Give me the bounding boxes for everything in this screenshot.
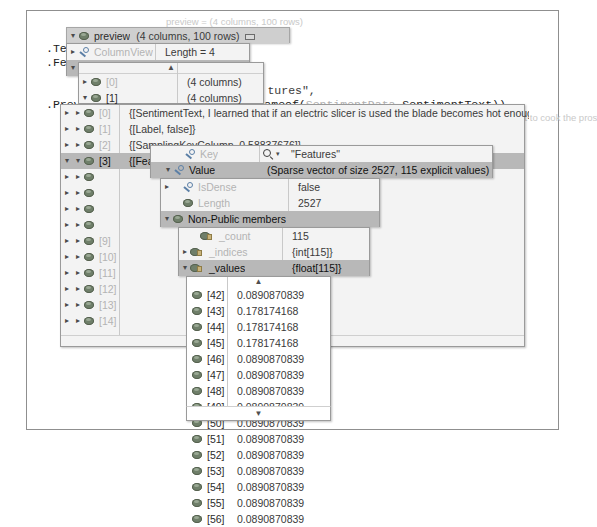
- row-nonpublic-members[interactable]: ▾ Non-Public members: [161, 211, 379, 227]
- values-row-3[interactable]: [45]0.178174168: [187, 335, 330, 351]
- values-row-5[interactable]: [47]0.0890870839: [187, 367, 330, 383]
- row-key[interactable]: ▾ Key ▾ "Features": [151, 146, 492, 162]
- values-row-13-value: 0.0890870839: [231, 495, 304, 511]
- row-value-label: Value: [186, 162, 215, 178]
- field-icon: [83, 154, 96, 168]
- field-icon: [83, 186, 96, 200]
- row-columnview[interactable]: ▸ ColumnView Length = 4: [67, 44, 249, 60]
- expander-value[interactable]: ▾: [162, 162, 173, 178]
- expander-key: ▾: [151, 146, 162, 162]
- property-icon: [78, 45, 91, 59]
- expander-member-11[interactable]: ▸: [61, 281, 72, 297]
- expander-member-10[interactable]: ▸: [61, 265, 72, 281]
- expander2-member-10[interactable]: ▸: [72, 265, 83, 281]
- magnifier-icon[interactable]: [261, 147, 275, 161]
- row-columnview-value: Length = 4: [159, 44, 215, 60]
- expander2-member-13[interactable]: ▸: [72, 313, 83, 329]
- datatip-root-value: (4 columns, 100 rows): [130, 28, 239, 44]
- field-icon: [83, 138, 96, 152]
- row-key-value: "Features": [285, 146, 340, 162]
- field-icon: [90, 75, 103, 89]
- expander-root[interactable]: ▾: [67, 28, 78, 44]
- values-row-1[interactable]: [43]0.178174168: [187, 303, 330, 319]
- expander-rowview-item-0[interactable]: ▸: [79, 74, 90, 90]
- expander-member-6[interactable]: ▸: [61, 201, 72, 217]
- expander-columnview[interactable]: ▸: [67, 44, 78, 60]
- row-member-9-label: [10]: [96, 249, 125, 265]
- expander-member-5[interactable]: ▸: [61, 185, 72, 201]
- expander-rowview[interactable]: ▾: [67, 60, 78, 76]
- expander2-member-5[interactable]: ▸: [72, 185, 83, 201]
- values-row-11-index: [53]: [204, 463, 225, 479]
- values-row-1-index: [43]: [204, 303, 225, 319]
- expander2-member-7[interactable]: ▸: [72, 217, 83, 233]
- values-row-2[interactable]: [44]0.178174168: [187, 319, 330, 335]
- values-row-9[interactable]: [51]0.0890870839: [187, 431, 330, 447]
- values-row-12[interactable]: [54]0.0890870839: [187, 479, 330, 495]
- expander-member-1[interactable]: ▸: [61, 121, 72, 137]
- row-columnview-label: ColumnView: [91, 44, 153, 60]
- values-row-13[interactable]: [55]0.0890870839: [187, 495, 330, 511]
- row-value[interactable]: ▾ Value (Sparse vector of size 2527, 115…: [151, 162, 492, 178]
- panel-nonpublic-members: ▾ _count 115 ▸ _indices {int[115]} ▾ _va…: [178, 227, 370, 276]
- row-indices[interactable]: ▸ _indices {int[115]}: [179, 244, 369, 260]
- values-row-10[interactable]: [52]0.0890870839: [187, 447, 330, 463]
- values-row-14[interactable]: [56]0.0890870839: [187, 511, 330, 527]
- expander-nonpublic[interactable]: ▾: [161, 211, 172, 227]
- expander-isdense[interactable]: ▸: [161, 179, 172, 195]
- expander2-member-3[interactable]: ▾: [72, 153, 83, 169]
- row-length-value: 2527: [292, 195, 321, 211]
- row-values[interactable]: ▾ _values {float[115]}: [179, 260, 369, 276]
- private-field-icon: [200, 229, 213, 243]
- field-icon: [191, 352, 204, 366]
- expander2-member-0[interactable]: ▸: [72, 105, 83, 121]
- field-icon: [83, 314, 96, 328]
- expander-member-13[interactable]: ▸: [61, 313, 72, 329]
- expander2-member-9[interactable]: ▸: [72, 249, 83, 265]
- private-field-icon: [190, 245, 203, 259]
- scroll-down-arrow-values[interactable]: ▼: [187, 407, 330, 417]
- row-member-12-label: [13]: [96, 297, 125, 313]
- values-row-10-value: 0.0890870839: [231, 447, 304, 463]
- expander-member-0[interactable]: ▸: [61, 105, 72, 121]
- expander-member-4[interactable]: ▸: [61, 169, 72, 185]
- values-row-0[interactable]: [42]0.0890870839: [187, 287, 330, 303]
- property-icon: [184, 147, 197, 161]
- expander-member-12[interactable]: ▸: [61, 297, 72, 313]
- pin-icon[interactable]: [243, 30, 255, 42]
- expander2-member-2[interactable]: ▸: [72, 137, 83, 153]
- values-row-4[interactable]: [46]0.0890870839: [187, 351, 330, 367]
- expander-member-9[interactable]: ▸: [61, 249, 72, 265]
- row-count[interactable]: ▾ _count 115: [179, 228, 369, 244]
- expander2-member-1[interactable]: ▸: [72, 121, 83, 137]
- row-member-0[interactable]: ▸▸[0]{[SentimentText, I learned that if …: [61, 105, 524, 121]
- datatip-root-row[interactable]: ▾ preview (4 columns, 100 rows): [66, 27, 290, 43]
- expander-indices[interactable]: ▸: [179, 244, 190, 260]
- expander2-member-12[interactable]: ▸: [72, 297, 83, 313]
- expander-values[interactable]: ▾: [179, 260, 190, 276]
- row-length[interactable]: ▾ Length 2527: [161, 195, 379, 211]
- field-icon: [191, 304, 204, 318]
- values-row-6[interactable]: [48]0.0890870839: [187, 383, 330, 399]
- values-row-0-value: 0.0890870839: [231, 287, 304, 303]
- row-isdense[interactable]: ▸ IsDense false: [161, 179, 379, 195]
- values-row-11[interactable]: [53]0.0890870839: [187, 463, 330, 479]
- values-row-3-index: [45]: [204, 335, 225, 351]
- expander-member-8[interactable]: ▸: [61, 233, 72, 249]
- values-row-10-index: [52]: [204, 447, 225, 463]
- expander2-member-4[interactable]: ▸: [72, 169, 83, 185]
- expander-member-2[interactable]: ▸: [61, 137, 72, 153]
- scroll-up-arrow-values[interactable]: ▲: [187, 277, 330, 287]
- expander2-member-8[interactable]: ▸: [72, 233, 83, 249]
- scroll-up-arrow-rowview[interactable]: ▲: [79, 63, 263, 74]
- row-member-1[interactable]: ▸▸[1]{[Label, false]}: [61, 121, 524, 137]
- row-rowview-item-0[interactable]: ▸ [0] (4 columns): [79, 74, 263, 90]
- expander-member-7[interactable]: ▸: [61, 217, 72, 233]
- values-row-1-value: 0.178174168: [231, 303, 298, 319]
- expander-member-3[interactable]: ▾: [61, 153, 72, 169]
- panel-value-members: ▸ IsDense false ▾ Length 2527 ▾ Non-Publ…: [160, 178, 380, 227]
- chevron-down-icon[interactable]: ▾: [276, 146, 280, 162]
- expander2-member-6[interactable]: ▸: [72, 201, 83, 217]
- expander2-member-11[interactable]: ▸: [72, 281, 83, 297]
- values-row-3-value: 0.178174168: [231, 335, 298, 351]
